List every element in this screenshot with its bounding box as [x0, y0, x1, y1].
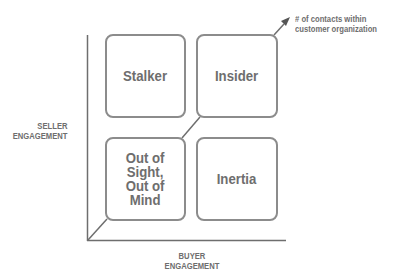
- quadrant-label-insider: Insider: [215, 69, 258, 83]
- x-axis-label-line: BUYER: [150, 251, 235, 261]
- quadrant-insider: Insider: [196, 34, 278, 118]
- y-axis-label-line: SELLER: [13, 121, 68, 131]
- diagonal-segment-1: [88, 219, 107, 240]
- arrow-label-line: customer organization: [295, 24, 377, 34]
- quadrant-inertia: Inertia: [196, 137, 278, 221]
- diagonal-segment-2: [182, 117, 200, 138]
- x-axis-label: BUYER ENGAGEMENT: [150, 251, 235, 271]
- quadrant-label-out-of-sight: Out of Sight, Out of Mind: [123, 151, 167, 207]
- arrow-label-line: # of contacts within: [295, 14, 377, 24]
- diagonal-arrow-label: # of contacts within customer organizati…: [295, 14, 377, 34]
- y-axis-label-line: ENGAGEMENT: [13, 131, 68, 141]
- quadrant-out-of-sight: Out of Sight, Out of Mind: [105, 137, 186, 221]
- engagement-matrix-diagram: Stalker Insider Out of Sight, Out of Min…: [0, 0, 409, 279]
- y-axis-label: SELLER ENGAGEMENT: [13, 121, 68, 141]
- quadrant-label-stalker: Stalker: [123, 69, 167, 83]
- quadrant-label-inertia: Inertia: [217, 172, 257, 186]
- quadrant-stalker: Stalker: [105, 34, 186, 118]
- x-axis-label-line: ENGAGEMENT: [150, 261, 235, 271]
- label-line: Mind: [126, 193, 165, 207]
- diagonal-segment-3: [274, 24, 284, 35]
- arrow-head-icon: [281, 17, 290, 26]
